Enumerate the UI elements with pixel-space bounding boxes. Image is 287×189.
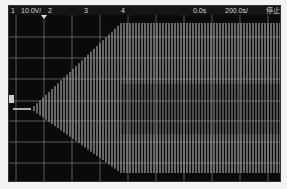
time-scale[interactable]: 200.0s/ [225,6,248,15]
channel-4-label[interactable]: 4 [121,6,125,15]
channel-3-label[interactable]: 3 [84,6,88,15]
run-status[interactable]: 停止 [266,6,280,15]
time-offset[interactable]: 0.0s [193,6,206,15]
oscilloscope-screen: 1 10.0V/ 2 3 4 0.0s 200.0s/ 停止 [8,5,281,182]
channel-ground-marker-icon[interactable] [9,95,14,103]
channel-2-label[interactable]: 2 [48,6,52,15]
channel-1-scale[interactable]: 10.0V/ [21,6,41,15]
waveform-svg [9,15,281,182]
channel-1-label[interactable]: 1 [11,6,15,15]
status-header: 1 10.0V/ 2 3 4 0.0s 200.0s/ 停止 [9,6,280,15]
waveform-plot [9,15,280,182]
